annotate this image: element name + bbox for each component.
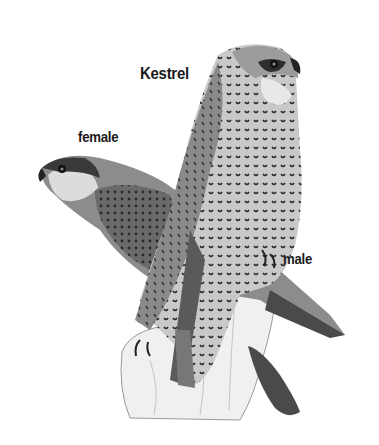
title-label: Kestrel (140, 64, 189, 84)
kestrel-illustration: Kestrel female male (0, 0, 379, 445)
female-label: female (78, 128, 118, 145)
male-label: male (283, 250, 312, 267)
kestrel-drawing (0, 0, 379, 445)
